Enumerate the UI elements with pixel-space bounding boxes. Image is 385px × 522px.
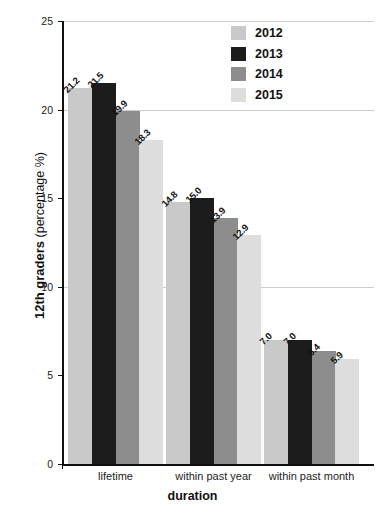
legend-item[interactable]: 2014 — [231, 65, 283, 83]
x-axis-title: duration — [0, 489, 385, 503]
bar — [139, 140, 163, 464]
y-axis-tick-label: 0 — [27, 459, 53, 469]
legend-item[interactable]: 2012 — [231, 24, 283, 42]
bar — [335, 359, 359, 464]
bar — [190, 198, 214, 464]
plot-area — [62, 21, 374, 464]
y-axis-title-bold: 12th graders — [32, 241, 47, 319]
legend: 2012201320142015 — [231, 24, 283, 106]
x-axis-category-label: within past month — [242, 470, 382, 482]
bar — [312, 351, 336, 464]
legend-color-swatch — [231, 47, 246, 61]
bar — [116, 111, 140, 464]
legend-item[interactable]: 2015 — [231, 86, 283, 104]
y-axis-tick-label: 25 — [27, 16, 53, 26]
bar — [237, 235, 261, 464]
legend-item-label: 2012 — [255, 26, 283, 40]
bar-chart-figure: 12th graders (percentage %) 0510152025 2… — [0, 0, 385, 522]
y-axis-tick-label: 20 — [27, 105, 53, 115]
bar — [214, 218, 238, 464]
legend-item-label: 2014 — [255, 67, 283, 81]
legend-item-label: 2013 — [255, 47, 283, 61]
legend-color-swatch — [231, 88, 246, 102]
bar — [288, 340, 312, 464]
legend-item[interactable]: 2013 — [231, 45, 283, 63]
y-axis-tick-label: 15 — [27, 193, 53, 203]
bar — [68, 88, 92, 464]
bar — [264, 340, 288, 464]
legend-color-swatch — [231, 26, 246, 40]
bar — [166, 202, 190, 464]
legend-item-label: 2015 — [255, 88, 283, 102]
caption-fragment — [55, 513, 175, 518]
y-axis-title: 12th graders (percentage %) — [32, 111, 47, 361]
x-axis-line — [62, 464, 374, 466]
y-axis-tick-label: 10 — [27, 282, 53, 292]
y-axis-tick-label: 5 — [27, 370, 53, 380]
x-axis-origin-tick — [62, 464, 63, 469]
bar — [92, 83, 116, 464]
legend-color-swatch — [231, 67, 246, 81]
